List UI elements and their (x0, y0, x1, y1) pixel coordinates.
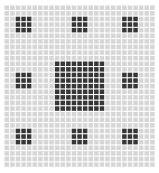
grid-pattern-figure (0, 0, 159, 173)
grid-canvas (0, 0, 159, 173)
